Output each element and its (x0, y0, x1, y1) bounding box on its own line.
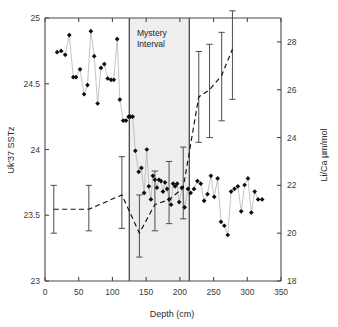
chart-figure: 050100150200250300350 2323.52424.525 182… (0, 0, 338, 327)
mystery-interval-band (129, 18, 189, 281)
y2-tick-label: 28 (287, 37, 297, 47)
mystery-interval-shading (129, 18, 189, 281)
x-tick-label: 300 (240, 287, 254, 297)
y2-tick-label: 20 (287, 228, 297, 238)
y2-tick-label: 24 (287, 133, 297, 143)
y-axis-left-title: Uk'37 SSTz (6, 126, 16, 174)
x-tick-label: 100 (105, 287, 119, 297)
mystery-interval-label-line2: Interval (137, 39, 165, 49)
y-tick-label: 24 (31, 145, 41, 155)
chart-canvas: 050100150200250300350 2323.52424.525 182… (0, 0, 338, 327)
x-tick-label: 350 (274, 287, 288, 297)
x-tick-label: 0 (43, 287, 48, 297)
x-axis-title: Depth (cm) (150, 309, 195, 319)
y-axis-right-title: Li/Ca µm/mol (319, 128, 329, 181)
y-tick-label: 25 (31, 13, 41, 23)
x-tick-label: 250 (206, 287, 220, 297)
y2-tick-label: 18 (287, 276, 297, 286)
y-tick-label: 24.5 (23, 79, 40, 89)
x-tick-label: 150 (139, 287, 153, 297)
y-tick-label: 23.5 (23, 210, 40, 220)
x-tick-label: 200 (173, 287, 187, 297)
y2-tick-label: 26 (287, 85, 297, 95)
y2-tick-label: 22 (287, 180, 297, 190)
y-tick-label: 23 (31, 276, 41, 286)
x-tick-label: 50 (74, 287, 84, 297)
mystery-interval-label-line1: Mystery (137, 28, 168, 38)
